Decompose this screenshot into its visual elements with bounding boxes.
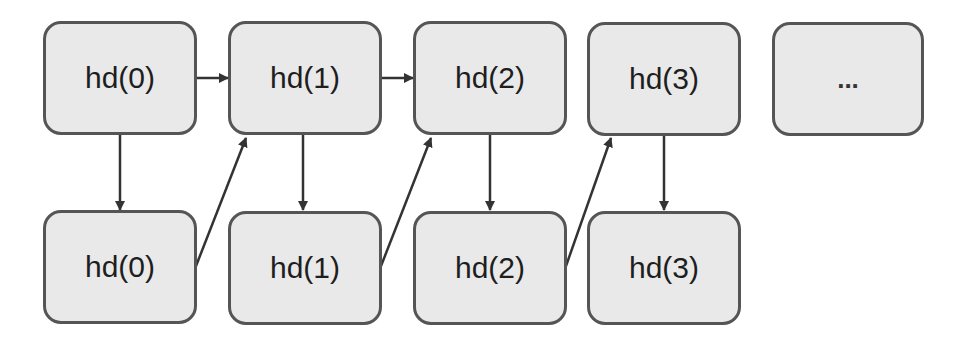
node-label: hd(2) <box>455 61 525 95</box>
node-bottom-hd2: hd(2) <box>413 211 567 325</box>
node-label: hd(0) <box>85 61 155 95</box>
node-bottom-hd1: hd(1) <box>228 211 382 325</box>
node-label: hd(0) <box>85 250 155 284</box>
node-label: hd(2) <box>455 251 525 285</box>
node-label: hd(3) <box>629 62 699 96</box>
node-bottom-hd3: hd(3) <box>587 211 741 325</box>
node-top-hd3: hd(3) <box>587 22 741 136</box>
node-top-hd0: hd(0) <box>43 21 197 135</box>
node-label: hd(3) <box>629 251 699 285</box>
node-bottom-hd0: hd(0) <box>43 210 197 324</box>
node-label: hd(1) <box>270 251 340 285</box>
node-top-hd1: hd(1) <box>228 21 382 135</box>
node-top-hd2: hd(2) <box>413 21 567 135</box>
node-top-ellipsis: ... <box>772 22 924 136</box>
node-label: ... <box>837 64 859 95</box>
node-label: hd(1) <box>270 61 340 95</box>
